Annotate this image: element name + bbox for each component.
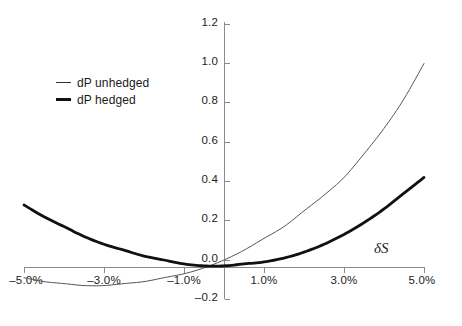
- legend-label-dp-unhedged: dP unhedged: [77, 76, 149, 90]
- legend-label-dp-hedged: dP hedged: [77, 93, 136, 107]
- legend-item-dp-unhedged: dP unhedged: [56, 74, 149, 91]
- legend-item-dp-hedged: dP hedged: [56, 91, 149, 108]
- plot-area: [0, 0, 462, 326]
- series-line-dp-hedged: [24, 177, 424, 266]
- thin-line-swatch-icon: [56, 82, 71, 83]
- chart-legend: dP unhedged dP hedged: [56, 74, 149, 108]
- x-axis-title-delta-s: δS: [374, 240, 388, 257]
- chart-figure: 1.2 1.0 0.8 0.6 0.4 0.2 0.0 –0.2 –5.0% –…: [0, 0, 462, 326]
- thick-line-swatch-icon: [56, 98, 71, 101]
